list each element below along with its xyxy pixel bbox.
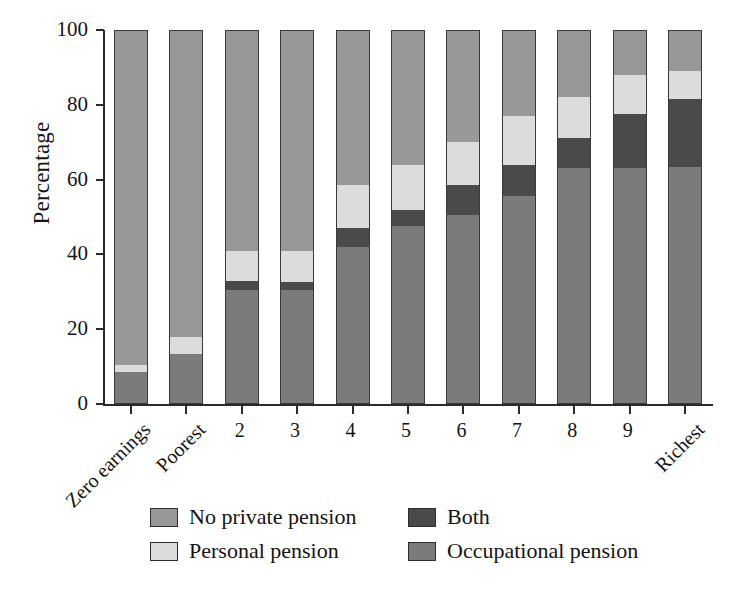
legend-label: Both [447,504,490,530]
legend-item[interactable]: Both [408,504,490,530]
bar-1 [114,30,148,404]
bar-3 [225,30,259,404]
bar-segment [280,30,314,251]
x-tick-mark [462,406,464,414]
legend-item[interactable]: Occupational pension [408,538,638,564]
x-tick-mark [185,406,187,414]
bar-segment [391,30,425,165]
legend-row: Personal pensionOccupational pension [150,534,650,568]
bar-segment [225,30,259,251]
bar-segment [502,165,536,197]
bar-segment [613,30,647,75]
x-tick-mark [573,406,575,414]
legend-swatch-icon [150,542,178,561]
legend-item[interactable]: Personal pension [150,538,408,564]
x-tick-mark [130,406,132,414]
x-tick-mark [629,406,631,414]
x-tick-label: Richest [651,418,710,477]
bar-2 [169,30,203,404]
bar-segment [502,196,536,404]
bar-segment [668,99,702,166]
bar-segment [225,290,259,404]
bar-segment [391,226,425,404]
bar-segment [169,337,203,354]
legend-item[interactable]: No private pension [150,504,408,530]
bar-segment [114,365,148,372]
x-tick-label: 3 [290,419,300,442]
legend-label: Occupational pension [447,538,638,564]
bar-segment [280,290,314,404]
bar-segment [114,30,148,365]
bar-10 [613,30,647,404]
bar-segment [446,30,480,142]
bar-8 [502,30,536,404]
x-tick-label: 7 [512,419,522,442]
bar-segment [446,142,480,185]
bar-segment [557,138,591,168]
bar-segment [336,247,370,404]
x-tick-mark [407,406,409,414]
bar-segment [114,372,148,404]
legend-label: Personal pension [189,538,339,564]
bar-segment [668,167,702,404]
bar-11 [668,30,702,404]
x-tick-label: Zero earnings [61,418,155,512]
bar-6 [391,30,425,404]
bar-segment [336,228,370,247]
bar-segment [336,185,370,228]
x-tick-mark [296,406,298,414]
y-tick-label: 20 [28,316,88,341]
bar-segment [668,30,702,71]
chart-legend: No private pensionBothPersonal pensionOc… [150,500,650,568]
bar-segment [391,210,425,227]
x-tick-mark [352,406,354,414]
x-tick-label: Poorest [152,418,211,477]
bar-segment [280,251,314,283]
bar-segment [169,30,203,337]
bar-segment [502,116,536,165]
bar-9 [557,30,591,404]
bar-segment [225,251,259,281]
x-tick-label: 6 [456,419,466,442]
bar-segment [502,30,536,116]
y-tick-label: 100 [28,17,88,42]
legend-row: No private pensionBoth [150,500,650,534]
bar-segment [557,97,591,138]
bar-5 [336,30,370,404]
bar-segment [280,282,314,289]
bar-segment [613,75,647,114]
x-tick-mark [684,406,686,414]
x-tick-mark [241,406,243,414]
bar-segment [557,168,591,404]
bar-segment [336,30,370,185]
legend-swatch-icon [150,508,178,527]
bar-segment [225,281,259,290]
legend-label: No private pension [189,504,356,530]
bar-segment [169,354,203,404]
x-tick-label: 9 [623,419,633,442]
x-tick-label: 5 [401,419,411,442]
bar-segment [613,114,647,168]
plot-area [103,30,713,404]
x-tick-label: 4 [346,419,356,442]
y-tick-label: 40 [28,241,88,266]
bar-segment [391,165,425,210]
bar-segment [613,168,647,404]
legend-swatch-icon [408,542,436,561]
y-tick-label: 60 [28,167,88,192]
bar-7 [446,30,480,404]
x-tick-label: 8 [567,419,577,442]
legend-swatch-icon [408,508,436,527]
bar-segment [446,215,480,404]
y-tick-label: 80 [28,92,88,117]
bar-segment [446,185,480,215]
bar-segment [557,30,591,97]
bar-4 [280,30,314,404]
x-tick-mark [518,406,520,414]
stacked-bar-chart: Percentage 020406080100 Zero earningsPoo… [0,0,730,593]
y-tick-label: 0 [28,391,88,416]
x-tick-label: 2 [235,419,245,442]
bar-segment [668,71,702,99]
